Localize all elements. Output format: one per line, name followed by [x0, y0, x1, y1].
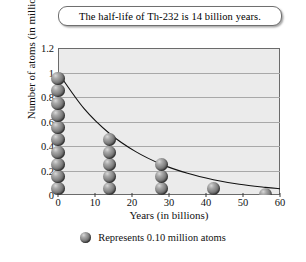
chart-legend: Represents 0.10 million atoms [0, 232, 306, 243]
x-axis-tick-label: 40 [201, 197, 212, 208]
x-axis-tick-label: 60 [275, 197, 286, 208]
atom-marker [155, 158, 168, 171]
x-axis-tick-label: 20 [127, 197, 138, 208]
decay-curve-path [58, 73, 280, 189]
atom-marker [51, 170, 64, 183]
atom-marker [51, 72, 64, 85]
chart-plot-area [58, 48, 280, 195]
x-axis-tick-label: 50 [238, 197, 249, 208]
x-axis-tick-label: 0 [55, 197, 60, 208]
decay-curve-svg [58, 48, 280, 195]
atom-marker [51, 133, 64, 146]
x-axis-tick-label: 10 [90, 197, 101, 208]
atom-marker [51, 97, 64, 110]
y-axis-tick-label: 1.2 [41, 43, 54, 54]
atom-marker [51, 158, 64, 171]
atom-marker [51, 146, 64, 159]
atom-marker [103, 146, 116, 159]
atom-marker [51, 121, 64, 134]
x-axis-title: Years (in billions) [58, 209, 280, 221]
x-axis-tick-label: 30 [164, 197, 175, 208]
chart-title-callout: The half-life of Th-232 is 14 billion ye… [58, 6, 282, 26]
atom-marker [51, 84, 64, 97]
legend-label: Represents 0.10 million atoms [98, 232, 226, 243]
atom-marker [51, 109, 64, 122]
sphere-icon [80, 232, 91, 243]
chart-title-text: The half-life of Th-232 is 14 billion ye… [79, 11, 261, 22]
y-axis-tick-labels: 00.20.40.60.811.2 [22, 48, 54, 195]
